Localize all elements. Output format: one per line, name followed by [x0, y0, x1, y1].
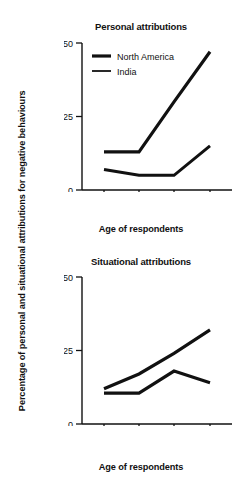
- chart-panel-personal-attributions: Personal attributions 50 25 0: [0, 0, 242, 250]
- chart-title-situational: Situational attributions: [40, 256, 242, 267]
- series-line-north-america-situational: [104, 330, 210, 389]
- y-tick-label-25-situational: 25: [64, 346, 73, 356]
- y-tick-label-50-personal: 50: [64, 40, 73, 49]
- y-tick-label-0-situational: 0: [68, 420, 73, 427]
- figure-container: Percentage of personal and situational a…: [0, 0, 242, 498]
- plot-svg-personal: 50 25 0 North America India: [64, 40, 232, 192]
- y-tick-label-0-personal: 0: [68, 186, 73, 193]
- x-axis-title-personal: Age of respondents: [40, 224, 242, 234]
- plot-svg-situational: 50 25 0 8 11 15 Adult: [64, 274, 232, 426]
- chart-panel-situational-attributions: Situational attributions 50 25 0: [0, 250, 242, 498]
- y-tick-label-50-situational: 50: [64, 274, 73, 283]
- plot-area-situational: 50 25 0 8 11 15 Adult: [64, 274, 232, 426]
- x-axis-title-situational: Age of respondents: [40, 462, 242, 472]
- chart-title-personal: Personal attributions: [40, 21, 242, 32]
- legend-personal: North America India: [92, 52, 174, 77]
- legend-label-north-america: North America: [117, 52, 174, 62]
- legend-label-india: India: [117, 67, 137, 77]
- y-tick-label-25-personal: 25: [64, 112, 73, 122]
- plot-area-personal: 50 25 0 North America India: [64, 40, 232, 192]
